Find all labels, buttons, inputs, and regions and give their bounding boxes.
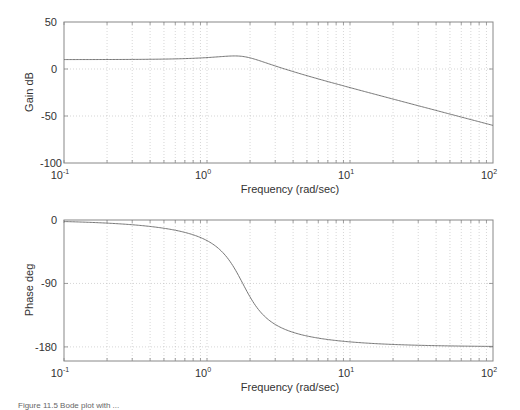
gain-ytick-label: -50 bbox=[41, 110, 57, 122]
xtick-label: 10-1 bbox=[51, 168, 70, 181]
gain-curve bbox=[64, 56, 493, 125]
gain-ytick-label: 50 bbox=[45, 16, 57, 28]
phase-ytick-label: 0 bbox=[51, 214, 57, 226]
gain-ytick-label: -100 bbox=[40, 157, 62, 169]
gain-ylabel: Gain dB bbox=[23, 72, 35, 112]
gain-plot-frame bbox=[64, 22, 493, 163]
phase-xtick-labels: 10-1100101102 bbox=[51, 366, 497, 379]
gain-ytick-label: 0 bbox=[51, 63, 57, 75]
phase-ticks bbox=[64, 220, 493, 361]
xtick-label: 100 bbox=[195, 168, 211, 181]
phase-ytick-label: -90 bbox=[41, 277, 57, 289]
xtick-label: 101 bbox=[338, 168, 354, 181]
gain-grid bbox=[64, 22, 493, 163]
figure-caption: Figure 11.5 Bode plot with ... bbox=[18, 401, 119, 410]
phase-curve bbox=[64, 222, 493, 347]
xtick-label: 101 bbox=[338, 366, 354, 379]
gain-xtick-labels: 10-1100101102 bbox=[51, 168, 497, 181]
phase-plot-panel: 0 -90 -180 Phase deg 10-1100101102 Frequ… bbox=[23, 214, 497, 393]
xtick-label: 100 bbox=[195, 366, 211, 379]
gain-plot-panel: 50 0 -50 -100 Gain dB 10-1100101102 Freq… bbox=[23, 16, 497, 195]
xtick-label: 10-1 bbox=[51, 366, 70, 379]
gain-xlabel: Frequency (rad/sec) bbox=[241, 183, 339, 195]
phase-xlabel: Frequency (rad/sec) bbox=[241, 381, 339, 393]
phase-ylabel: Phase deg bbox=[23, 264, 35, 317]
gain-ticks bbox=[64, 22, 493, 163]
xtick-label: 102 bbox=[481, 366, 497, 379]
phase-ytick-label: -180 bbox=[35, 341, 57, 353]
phase-plot-frame bbox=[64, 220, 493, 361]
xtick-label: 102 bbox=[481, 168, 497, 181]
phase-grid bbox=[64, 220, 493, 361]
